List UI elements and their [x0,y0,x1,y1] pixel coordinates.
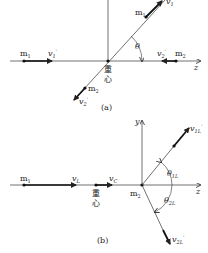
figure-b: z y m1 vL vC 重 心 m2 v1L′ v2L′ θ1L θ2L (b [10,117,203,245]
center-label-a-2: 心 [104,75,112,84]
vC-label-b: vC [109,174,118,184]
m2-label-b: m2 [130,189,141,199]
v2L-arrow-b [163,230,170,244]
m1-label-a: m1 [20,49,31,59]
vL-label-b: vL [72,174,81,184]
m2-label-right-a: m2 [175,49,186,59]
caption-b: (b) [97,236,108,245]
v2-label-lower-a: v2′ [79,96,89,107]
v1-label-upper-a: v1 [166,0,174,7]
y-axis-label-b: y [134,117,140,126]
v1L-line-b [142,146,174,185]
center-label-b-1: 重 [92,188,100,198]
theta1L-label-b: θ1L [167,169,179,179]
m1-label-b: m1 [20,174,31,184]
caption-a: (a) [101,103,112,112]
v2-label-right-a: v2′ [157,48,167,59]
v1-arrow-upper-a [146,1,162,17]
center-label-a-1: 重 [104,64,112,74]
theta-label-a: θ [135,42,140,51]
v1-label-a: v1′ [48,48,58,59]
v1L-arrow-b [174,128,189,146]
v1L-label-b: v1L′ [190,123,203,134]
z-axis-label-a: z [193,63,199,72]
v2L-label-b: v2L′ [172,234,185,245]
collision-diagram: z 重 心 m1 v1′ v2′ m2 m1 v1 m2 v2′ θ (a) [0,0,208,253]
m2-label-lower-a: m2 [88,84,99,94]
z-axis-label-b: z [195,187,201,196]
m1-label-upper-a: m1 [135,8,146,18]
center-label-b-2: 心 [92,199,100,208]
figure-a: z 重 心 m1 v1′ v2′ m2 m1 v1 m2 v2′ θ (a) [10,0,200,112]
theta2L-label-b: θ2L [164,196,176,206]
v2L-line-b [142,185,163,230]
center-of-mass-a [106,59,109,62]
